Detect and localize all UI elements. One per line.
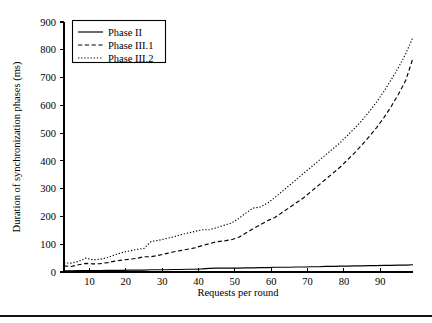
x-tick-label: 80 [339, 276, 350, 287]
chart-figure: 0100200300400500600700800900 10203040506… [0, 0, 432, 323]
x-tick-label: 20 [121, 276, 132, 287]
x-tick-label: 90 [375, 276, 386, 287]
series-line-phase-iii-1 [64, 58, 413, 266]
legend-label-2: Phase III.1 [108, 40, 154, 51]
y-tick-label: 800 [40, 44, 56, 55]
x-tick-label: 40 [193, 276, 204, 287]
y-axis-tick-labels: 0100200300400500600700800900 [40, 17, 56, 278]
x-axis-tick-labels: 102030405060708090 [84, 276, 385, 287]
data-series-group [64, 37, 413, 271]
line-chart: 0100200300400500600700800900 10203040506… [0, 0, 432, 323]
y-tick-label: 200 [40, 211, 56, 222]
x-tick-label: 30 [157, 276, 168, 287]
x-axis-title: Requests per round [197, 287, 279, 298]
y-tick-label: 400 [40, 156, 56, 167]
y-tick-label: 900 [40, 17, 56, 28]
series-line-phase-ii [64, 265, 413, 271]
y-tick-label: 0 [51, 267, 56, 278]
x-tick-label: 50 [230, 276, 241, 287]
y-tick-label: 300 [40, 183, 56, 194]
x-tick-label: 10 [84, 276, 95, 287]
legend-label-3: Phase III.2 [108, 53, 154, 64]
x-tick-label: 70 [302, 276, 313, 287]
y-axis-ticks [60, 22, 65, 272]
y-axis-title: Duration of synchronization phases (ms) [11, 61, 23, 232]
series-line-phase-iii-2 [64, 37, 413, 263]
chart-legend: Phase IIPhase III.1Phase III.2 [73, 21, 166, 64]
y-tick-label: 600 [40, 100, 56, 111]
y-tick-label: 700 [40, 72, 56, 83]
legend-label-1: Phase II [108, 27, 143, 38]
x-tick-label: 60 [266, 276, 277, 287]
y-tick-label: 500 [40, 128, 56, 139]
y-tick-label: 100 [40, 239, 56, 250]
